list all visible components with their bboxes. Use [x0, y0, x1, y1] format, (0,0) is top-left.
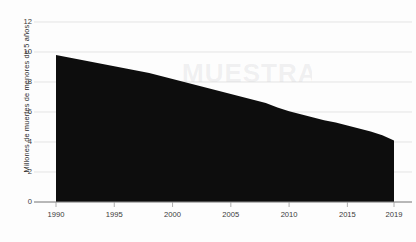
y-tick-label: 10 [10, 47, 32, 56]
area-chart-plot [0, 0, 416, 242]
y-tick-label: 0 [10, 197, 32, 206]
area-series-fill [56, 55, 394, 202]
y-tick-label: 4 [10, 137, 32, 146]
chart-container: MUESTRA Millones de muertes de menores d… [0, 0, 416, 242]
x-tick-label: 1990 [36, 210, 76, 219]
y-tick-label: 12 [10, 17, 32, 26]
x-tick-label: 2010 [269, 210, 309, 219]
x-tick-label: 2019 [374, 210, 414, 219]
y-tick-label: 6 [10, 107, 32, 116]
x-tick-label: 1995 [94, 210, 134, 219]
x-tick-label: 2005 [211, 210, 251, 219]
y-tick-label: 2 [10, 167, 32, 176]
x-tick-marks [56, 202, 394, 207]
y-tick-label: 8 [10, 77, 32, 86]
x-tick-label: 2000 [153, 210, 193, 219]
x-tick-label: 2015 [327, 210, 367, 219]
